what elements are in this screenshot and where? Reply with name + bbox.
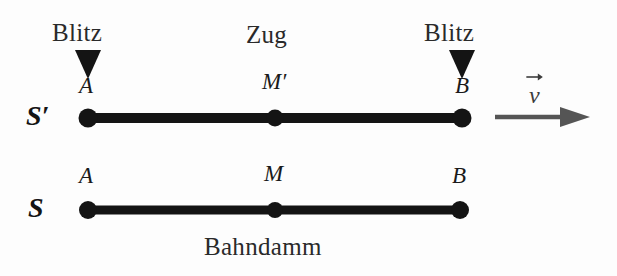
ground-endpoint-dot-b: [451, 201, 469, 219]
train-endpoint-dot-b: [453, 109, 472, 128]
velocity-vector-label: v: [529, 81, 540, 107]
point-label-m-prime-train: M′: [262, 70, 286, 93]
ground-endpoint-dot-a: [79, 201, 97, 219]
point-label-b-train: B: [455, 74, 469, 97]
point-label-b-ground: B: [452, 164, 466, 187]
point-label-m-train-base: M: [262, 69, 281, 94]
frame-label-s-prime-mark: ′: [42, 100, 50, 131]
point-label-a-train: A: [79, 74, 93, 97]
flash-right-label: Blitz: [424, 20, 474, 45]
einstein-train-thought-experiment-figure: Zug Blitz Blitz A M′ B S′: [0, 0, 617, 276]
embankment-caption: Bahndamm: [204, 234, 322, 259]
flash-left-label: Blitz: [52, 20, 102, 45]
point-label-m-train-prime: ′: [281, 69, 286, 94]
frame-label-s-prime-base: S: [26, 100, 42, 131]
frame-label-s: S: [28, 194, 44, 222]
frame-label-s-prime: S′: [26, 102, 49, 130]
vector-arrow-accent-icon: [526, 72, 543, 81]
train-caption: Zug: [246, 22, 287, 47]
velocity-arrow-head: [560, 107, 590, 127]
train-endpoint-dot-a: [79, 109, 98, 128]
point-label-a-ground: A: [79, 164, 93, 187]
ground-midpoint-dot-m: [267, 202, 283, 218]
point-label-m-ground: M: [264, 162, 283, 185]
velocity-label-glyph: v: [529, 82, 540, 108]
train-midpoint-dot-m-prime: [267, 110, 284, 127]
velocity-label-wrap: v: [529, 81, 540, 107]
